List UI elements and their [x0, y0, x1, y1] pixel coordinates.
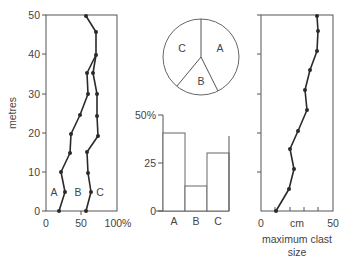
pie-chart: A B C	[163, 19, 239, 95]
bar-y-tick-25: 25	[144, 157, 156, 169]
clast-x-ticks	[275, 207, 318, 211]
bar-y-tick-0: 0	[150, 205, 156, 217]
bar-chart: 50% 25 0 A B C	[135, 109, 229, 227]
x-tick-50: 50	[75, 217, 87, 229]
y-tick-10: 10	[28, 166, 40, 178]
clast-size-chart: 0 cm 50 maximum clast size	[257, 14, 339, 258]
bar-category-a: A	[170, 215, 177, 227]
clast-size-line	[276, 16, 318, 211]
clast-plot-frame	[261, 15, 333, 211]
y-tick-20: 20	[28, 127, 40, 139]
clast-x-label-line2: size	[288, 246, 307, 258]
pie-label-b: B	[197, 75, 204, 87]
y-tick-0: 0	[34, 205, 40, 217]
x-tick-100: 100%	[105, 217, 132, 229]
clast-x-label-line1: maximum clast	[262, 233, 332, 245]
y-tick-50: 50	[28, 9, 40, 21]
bar-c	[207, 153, 229, 211]
region-label-b: B	[74, 186, 81, 198]
figure: 0 10 20 30 40 50 metres 0 50 100%	[0, 0, 349, 271]
bar-b	[185, 186, 207, 211]
bar-a	[163, 133, 185, 211]
region-label-a: A	[50, 186, 57, 198]
x-tick-0: 0	[43, 217, 49, 229]
ab-boundary-line	[59, 16, 96, 211]
region-label-c: C	[96, 186, 104, 198]
y-tick-40: 40	[28, 48, 40, 60]
bar-category-c: C	[214, 215, 222, 227]
clast-x-tick-0: 0	[258, 217, 264, 229]
bar-y-tick-50: 50%	[135, 109, 156, 121]
composition-chart: 0 10 20 30 40 50 metres 0 50 100%	[6, 9, 131, 229]
clast-x-unit: cm	[290, 217, 304, 229]
composition-x-axis: 0 50 100%	[43, 211, 131, 229]
clast-x-tick-50: 50	[327, 217, 339, 229]
clast-y-ticks	[257, 15, 261, 172]
pie-label-a: A	[216, 42, 223, 54]
clast-points	[274, 14, 320, 213]
y-axis-label: metres	[6, 97, 18, 129]
pie-label-c: C	[178, 42, 186, 54]
y-tick-30: 30	[28, 88, 40, 100]
composition-y-axis: 0 10 20 30 40 50 metres	[6, 9, 46, 217]
bar-category-b: B	[192, 215, 199, 227]
